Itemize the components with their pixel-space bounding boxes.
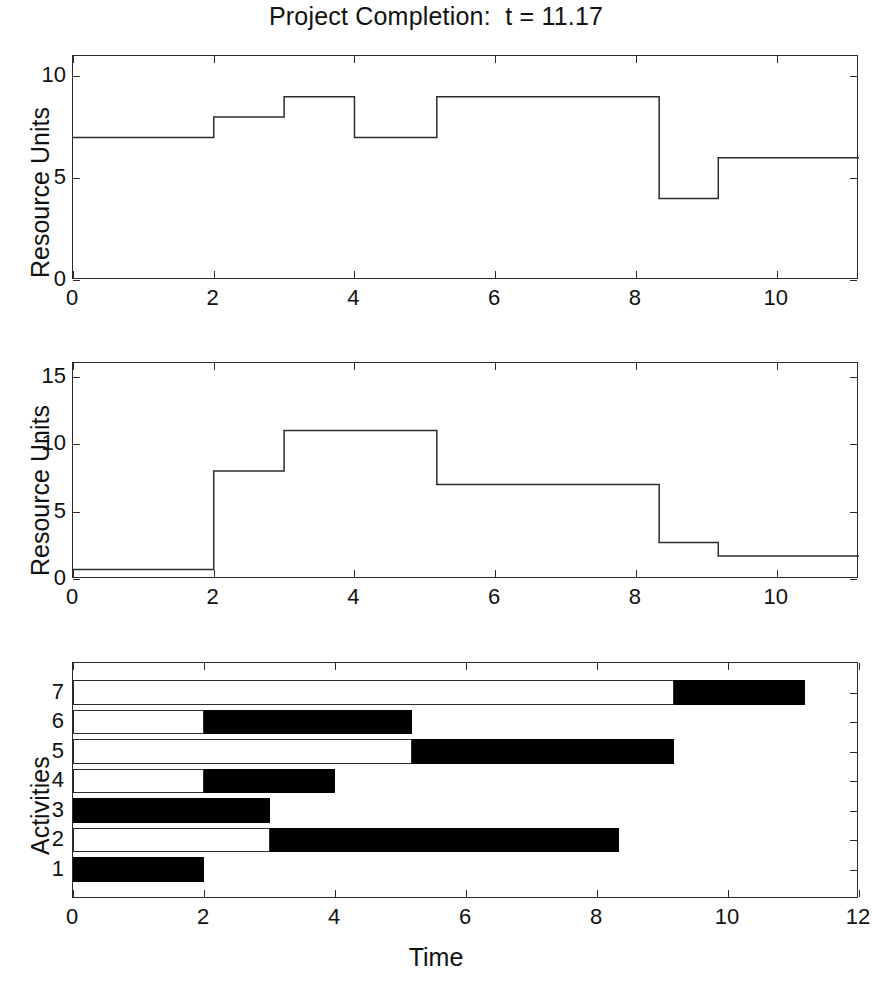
step-line bbox=[73, 97, 859, 199]
x-tick bbox=[777, 363, 778, 370]
x-tick bbox=[777, 570, 778, 577]
x-tick bbox=[777, 271, 778, 278]
activity-row-label: 6 bbox=[30, 708, 64, 734]
gantt-work-bar[interactable] bbox=[73, 798, 270, 822]
x-tick-label: 2 bbox=[197, 904, 209, 930]
gantt-work-bar[interactable] bbox=[270, 828, 619, 852]
y-tick bbox=[73, 579, 80, 580]
gantt-slack-bar[interactable] bbox=[73, 828, 270, 852]
gantt-work-bar[interactable] bbox=[73, 857, 204, 881]
x-tick bbox=[73, 56, 74, 63]
xlabel-time: Time bbox=[0, 943, 872, 972]
gantt-slack-bar[interactable] bbox=[73, 710, 204, 734]
x-tick-label: 2 bbox=[207, 584, 219, 610]
x-tick bbox=[636, 56, 637, 63]
x-tick bbox=[859, 663, 860, 670]
gantt-slack-bar[interactable] bbox=[73, 680, 674, 704]
activity-row-label: 7 bbox=[30, 679, 64, 705]
x-tick bbox=[354, 570, 355, 577]
x-tick bbox=[335, 890, 336, 897]
x-tick bbox=[214, 363, 215, 370]
y-tick bbox=[850, 178, 857, 179]
y-tick bbox=[850, 693, 857, 694]
x-tick-label: 0 bbox=[66, 584, 78, 610]
x-tick-label: 8 bbox=[590, 904, 602, 930]
x-tick bbox=[495, 570, 496, 577]
x-tick bbox=[728, 663, 729, 670]
x-tick-label: 4 bbox=[347, 584, 359, 610]
x-tick bbox=[495, 56, 496, 63]
x-tick bbox=[335, 663, 336, 670]
x-tick bbox=[214, 56, 215, 63]
gantt-work-bar[interactable] bbox=[412, 739, 674, 763]
x-tick bbox=[728, 890, 729, 897]
x-tick bbox=[636, 363, 637, 370]
x-tick bbox=[597, 890, 598, 897]
x-tick-label: 8 bbox=[629, 584, 641, 610]
x-tick-label: 4 bbox=[347, 285, 359, 311]
y-tick-label: 10 bbox=[24, 62, 66, 88]
x-tick-label: 8 bbox=[629, 285, 641, 311]
x-tick bbox=[73, 363, 74, 370]
x-tick-label: 10 bbox=[715, 904, 739, 930]
step-line bbox=[73, 431, 859, 570]
x-tick bbox=[354, 271, 355, 278]
y-tick bbox=[850, 512, 857, 513]
x-tick bbox=[204, 890, 205, 897]
x-tick-label: 6 bbox=[459, 904, 471, 930]
y-tick bbox=[73, 444, 80, 445]
y-tick bbox=[850, 280, 857, 281]
figure-canvas: Project Completion: t = 11.17 0246810051… bbox=[0, 0, 872, 983]
gantt-slack-bar[interactable] bbox=[73, 769, 204, 793]
activity-row-label: 1 bbox=[30, 856, 64, 882]
y-tick bbox=[73, 76, 80, 77]
x-tick bbox=[354, 56, 355, 63]
y-tick bbox=[850, 870, 857, 871]
y-tick bbox=[73, 280, 80, 281]
ylabel-resource-units-1: Resource Units bbox=[26, 107, 55, 278]
y-tick bbox=[850, 444, 857, 445]
step-series-2 bbox=[73, 363, 859, 579]
x-tick-label: 0 bbox=[66, 285, 78, 311]
x-tick bbox=[777, 56, 778, 63]
gantt-work-bar[interactable] bbox=[204, 769, 335, 793]
y-tick bbox=[73, 512, 80, 513]
y-tick bbox=[73, 178, 80, 179]
x-tick bbox=[597, 663, 598, 670]
x-tick-label: 2 bbox=[207, 285, 219, 311]
x-tick bbox=[73, 570, 74, 577]
y-tick bbox=[850, 579, 857, 580]
x-tick bbox=[495, 271, 496, 278]
chart-activity-gantt bbox=[72, 662, 858, 898]
y-tick bbox=[73, 377, 80, 378]
chart-resource-profile-2 bbox=[72, 362, 858, 578]
gantt-slack-bar[interactable] bbox=[73, 739, 412, 763]
x-tick bbox=[73, 663, 74, 670]
step-series-1 bbox=[73, 56, 859, 280]
x-tick bbox=[859, 890, 860, 897]
y-tick bbox=[850, 781, 857, 782]
x-tick bbox=[354, 363, 355, 370]
x-tick bbox=[73, 890, 74, 897]
x-tick-label: 10 bbox=[763, 285, 787, 311]
y-tick bbox=[850, 840, 857, 841]
x-tick-label: 0 bbox=[66, 904, 78, 930]
y-tick bbox=[850, 377, 857, 378]
gantt-work-bar[interactable] bbox=[204, 710, 412, 734]
y-tick-label: 15 bbox=[24, 363, 66, 389]
chart-resource-profile-1 bbox=[72, 55, 858, 279]
x-tick bbox=[636, 570, 637, 577]
y-tick bbox=[850, 722, 857, 723]
gantt-work-bar[interactable] bbox=[674, 680, 805, 704]
x-tick bbox=[466, 663, 467, 670]
x-tick-label: 12 bbox=[846, 904, 870, 930]
y-tick bbox=[850, 752, 857, 753]
x-tick bbox=[73, 271, 74, 278]
x-tick bbox=[636, 271, 637, 278]
x-tick bbox=[214, 271, 215, 278]
x-tick bbox=[204, 663, 205, 670]
x-tick-label: 6 bbox=[488, 285, 500, 311]
x-tick-label: 6 bbox=[488, 584, 500, 610]
y-tick bbox=[850, 76, 857, 77]
y-tick bbox=[850, 811, 857, 812]
